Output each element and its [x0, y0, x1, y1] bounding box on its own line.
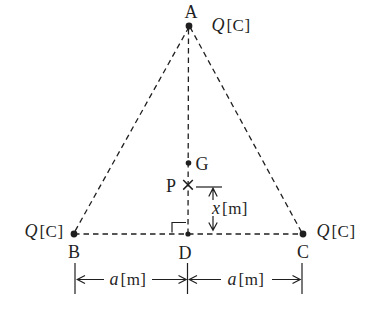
label-vertex-a: A: [185, 3, 198, 21]
charge-label-top: Q[C]: [211, 16, 250, 34]
a-unit: [m]: [120, 270, 146, 289]
median-ad-dashed: [188, 29, 189, 233]
diagram-canvas: A B C D G P Q[C] Q[C] Q[C] x[m] a[m] a[m…: [0, 0, 381, 321]
x-dimension-label: x[m]: [212, 199, 248, 217]
charge-symbol: Q: [316, 221, 329, 241]
label-vertex-c: C: [297, 243, 309, 261]
charge-label-bottom-right: Q[C]: [316, 222, 355, 240]
a-dimension-label-left: a[m]: [109, 270, 146, 288]
charge-symbol: Q: [211, 15, 224, 35]
edge-ab-dashed: [74, 27, 189, 233]
a-symbol: a: [109, 269, 118, 289]
diagram-figure: [0, 0, 381, 321]
charge-unit: [C]: [39, 222, 63, 241]
a-unit: [m]: [238, 270, 264, 289]
charge-label-bottom-left: Q[C]: [24, 222, 63, 240]
charge-dot-a: [186, 23, 193, 30]
x-unit: [m]: [222, 199, 248, 218]
label-point-g: G: [196, 155, 209, 173]
charge-symbol: Q: [24, 221, 37, 241]
x-dim-arrow-down: [209, 216, 217, 230]
x-symbol: x: [212, 198, 220, 218]
charge-dot-b: [71, 231, 78, 238]
a-symbol: a: [227, 269, 236, 289]
label-vertex-b: B: [68, 243, 80, 261]
charge-unit: [C]: [226, 16, 250, 35]
centroid-dot-g: [186, 160, 192, 166]
a-dim-left-arrow-right: [152, 276, 186, 284]
a-dim-right-arrow-left: [189, 276, 221, 284]
point-dot-d: [185, 231, 190, 236]
charge-dot-c: [300, 231, 307, 238]
a-dimension-label-right: a[m]: [227, 270, 264, 288]
a-dim-left-arrow-left: [77, 276, 104, 284]
label-point-p: P: [166, 177, 176, 195]
charge-unit: [C]: [331, 222, 355, 241]
label-point-d: D: [179, 244, 192, 262]
right-angle-marker: [172, 223, 186, 233]
a-dim-right-arrow-right: [272, 276, 300, 284]
